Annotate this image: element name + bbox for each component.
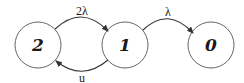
edge-1-to-0: λ — [143, 5, 193, 33]
edge-2-to-1-label: 2λ — [76, 4, 88, 18]
edge-1-to-2: u — [56, 60, 108, 83]
node-1: 1 — [102, 22, 148, 68]
edge-2-to-1: 2λ — [55, 4, 108, 31]
arrow-icon — [56, 60, 108, 71]
node-0-label: 0 — [205, 35, 217, 55]
node-1-label: 1 — [119, 35, 131, 55]
state-diagram: 2 1 0 2λ u λ — [0, 0, 244, 83]
arrow-icon — [143, 19, 193, 33]
arrow-icon — [55, 17, 108, 31]
node-0: 0 — [188, 22, 234, 68]
node-2-label: 2 — [31, 35, 44, 55]
node-2: 2 — [15, 22, 61, 68]
edge-1-to-0-label: λ — [165, 5, 171, 19]
edge-1-to-2-label: u — [79, 71, 85, 83]
